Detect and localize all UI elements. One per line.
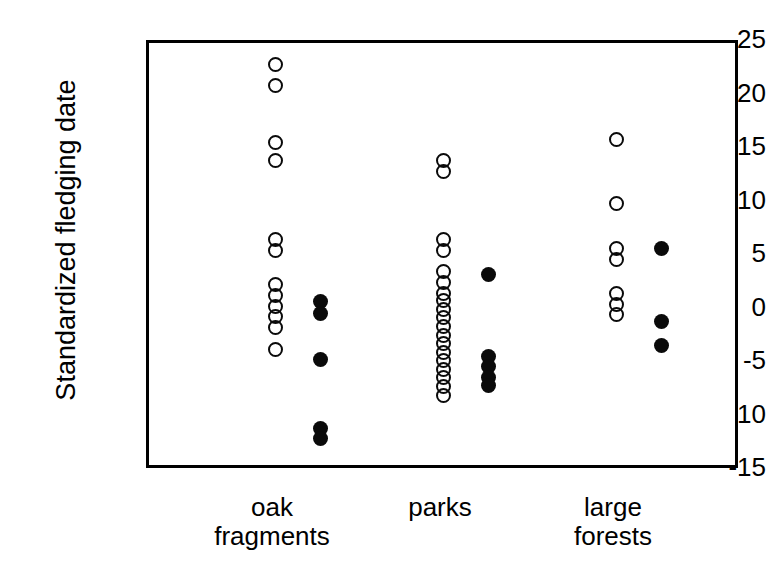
y-axis-title: Standardized fledging date xyxy=(44,10,88,470)
data-point-open xyxy=(436,388,451,403)
data-point-open xyxy=(609,307,624,322)
data-point-open xyxy=(268,135,283,150)
plot-area xyxy=(146,40,738,468)
data-point-filled xyxy=(313,352,328,367)
data-point-open xyxy=(609,196,624,211)
data-point-filled xyxy=(654,241,669,256)
data-point-open xyxy=(268,243,283,258)
x-label-large-forests: large forests xyxy=(513,493,713,551)
x-label-parks: parks xyxy=(340,493,540,522)
data-point-filled xyxy=(313,431,328,446)
data-point-open xyxy=(268,78,283,93)
data-point-open xyxy=(609,252,624,267)
data-point-filled xyxy=(654,338,669,353)
data-point-open xyxy=(609,132,624,147)
data-point-filled xyxy=(481,267,496,282)
scatter-plot-figure: Standardized fledging date 2520151050-5-… xyxy=(0,0,774,584)
data-point-open xyxy=(268,57,283,72)
data-point-filled xyxy=(313,306,328,321)
data-point-open xyxy=(268,342,283,357)
data-point-open xyxy=(436,164,451,179)
data-point-open xyxy=(268,320,283,335)
data-point-open xyxy=(436,243,451,258)
data-point-filled xyxy=(654,314,669,329)
data-point-filled xyxy=(481,378,496,393)
data-point-open xyxy=(268,153,283,168)
